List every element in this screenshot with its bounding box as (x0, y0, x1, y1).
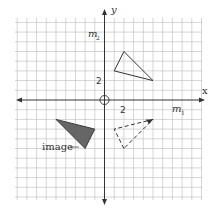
x-axis-label: x (202, 85, 208, 96)
y-tick-label: 2 (96, 76, 102, 86)
svg-text:1: 1 (181, 109, 185, 116)
m1-label: m 1 (172, 103, 185, 116)
y-axis (102, 9, 107, 205)
x-axis (16, 98, 205, 103)
arrow-head-icon (146, 119, 153, 124)
y-axis-label: y (110, 4, 117, 15)
x-tick-label: 2 (120, 105, 126, 115)
coordinate-plane: y x 2 2 m 2 m 1 image (0, 0, 212, 215)
m2-label: m 2 (88, 28, 100, 41)
image-label: image (42, 141, 73, 152)
svg-text:2: 2 (96, 34, 100, 41)
